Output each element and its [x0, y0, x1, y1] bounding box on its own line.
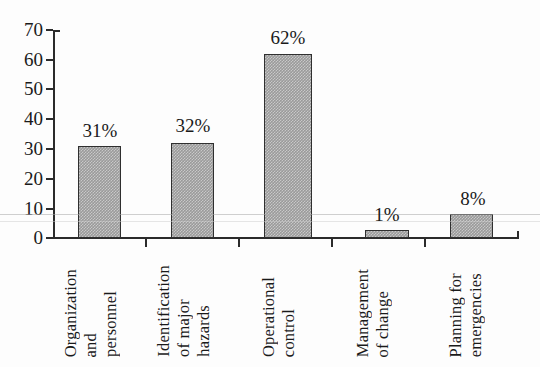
bar-identification-of-major-hazards[interactable]	[171, 143, 214, 238]
y-tick-0	[46, 237, 53, 239]
x-category-line: personnel	[102, 291, 119, 357]
x-category-label-organization-and-personnel: Organization and personnel	[62, 245, 119, 357]
x-category-label-management-of-change: Management of change	[354, 245, 391, 357]
x-tick-4	[424, 239, 426, 247]
data-label-management-of-change: 1%	[359, 205, 415, 224]
data-label-operational-control: 62%	[257, 28, 319, 47]
x-category-line: hazards	[195, 305, 212, 357]
x-category-line: and	[82, 333, 99, 357]
y-tick-60	[46, 59, 53, 61]
y-tick-10	[46, 208, 53, 210]
x-category-line: Organization	[62, 269, 79, 357]
x-category-label-operational-control: Operational control	[260, 245, 297, 357]
y-tick-70	[46, 29, 53, 31]
y-tick-20	[46, 178, 53, 180]
plot-area: 70 60 50 40 30 20 10 0	[0, 0, 540, 367]
x-tick-3	[331, 239, 333, 247]
bar-management-of-change[interactable]	[365, 230, 409, 238]
x-category-line: Management	[354, 269, 371, 357]
data-label-planning-for-emergencies: 8%	[445, 189, 501, 208]
x-category-line: Identification	[155, 265, 172, 357]
x-category-line: control	[280, 309, 297, 357]
x-category-line: of major	[175, 299, 192, 357]
y-tick-label-40: 40	[3, 109, 43, 128]
y-tick-label-60: 60	[3, 50, 43, 69]
y-tick-label-10: 10	[3, 199, 43, 218]
x-tick-2	[238, 239, 240, 247]
x-category-line: of change	[374, 291, 391, 357]
y-tick-label-0: 0	[3, 228, 43, 247]
bar-planning-for-emergencies[interactable]	[450, 214, 493, 238]
y-tick-label-30: 30	[3, 139, 43, 158]
bar-chart-figure: 70 60 50 40 30 20 10 0	[0, 0, 540, 367]
x-axis-right-cap	[517, 231, 519, 239]
y-tick-40	[46, 118, 53, 120]
bar-organization-and-personnel[interactable]	[78, 146, 121, 238]
scan-artifact-line	[0, 214, 540, 215]
x-tick-1	[145, 239, 147, 247]
y-tick-label-50: 50	[3, 79, 43, 98]
y-axis-top-cap	[53, 30, 60, 32]
y-tick-label-20: 20	[3, 169, 43, 188]
bar-operational-control[interactable]	[264, 54, 312, 238]
x-category-line: Operational	[260, 277, 277, 357]
y-axis-line	[53, 30, 55, 239]
x-category-label-identification-of-major-hazards: Identification of major hazards	[155, 245, 212, 357]
x-category-line: emergencies	[467, 273, 484, 357]
scan-artifact-line-secondary	[0, 221, 540, 222]
y-tick-50	[46, 88, 53, 90]
x-category-line: Planning for	[447, 273, 464, 357]
y-tick-label-70: 70	[3, 20, 43, 39]
y-tick-30	[46, 148, 53, 150]
data-label-identification-of-major-hazards: 32%	[162, 116, 224, 135]
data-label-organization-and-personnel: 31%	[69, 121, 131, 140]
x-category-label-planning-for-emergencies: Planning for emergencies	[447, 245, 484, 357]
